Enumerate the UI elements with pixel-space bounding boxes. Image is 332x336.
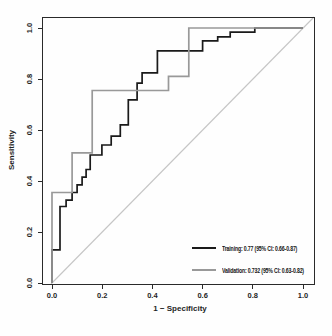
y-tick-label: 0.8 [25,74,34,84]
y-tick-label: 0.4 [25,175,34,186]
x-tick-label: 0.6 [197,291,207,300]
x-tick-label: 0.2 [97,291,107,300]
y-tick-label: 0.2 [25,227,34,237]
legend-label-training: Training: 0.77 (95% CI: 0.66-0.87) [222,245,297,252]
x-tick-label: 0.0 [47,291,57,300]
x-tick-label: 0.8 [248,291,258,300]
legend-label-validation: Validation: 0.732 (95% CI: 0.63-0.82) [222,267,304,274]
validation-line-swatch [192,269,216,272]
x-tick-label: 1.0 [298,291,308,300]
roc-figure: 0.00.20.40.60.81.00.00.20.40.60.81.0 1 −… [0,0,332,336]
legend: Training: 0.77 (95% CI: 0.66-0.87) Valid… [192,242,324,286]
y-tick-label: 0.6 [25,125,34,135]
x-axis-title: 1 − Specificity [153,304,207,313]
training-line-swatch [192,247,216,250]
y-axis-title: Sensitivity [7,129,16,170]
y-tick-label: 1.0 [25,23,34,33]
legend-item-validation: Validation: 0.732 (95% CI: 0.63-0.82) [192,264,324,276]
x-tick-label: 0.4 [147,291,158,300]
legend-item-training: Training: 0.77 (95% CI: 0.66-0.87) [192,242,324,254]
y-tick-label: 0.0 [25,278,34,288]
